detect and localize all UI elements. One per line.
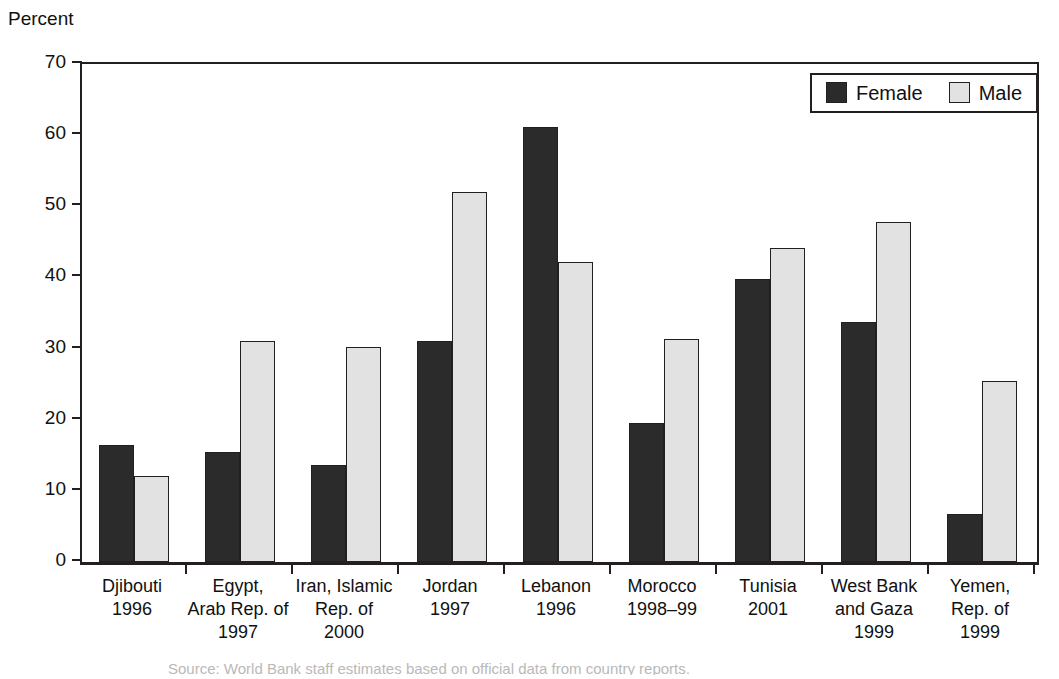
bar-male — [770, 248, 805, 562]
bar-male — [876, 222, 911, 562]
bar-male — [982, 381, 1017, 562]
y-tick-label-30: 30 — [14, 337, 66, 356]
x-tick-4 — [503, 563, 505, 574]
bar-female — [947, 514, 982, 562]
bar-female — [205, 452, 240, 562]
x-tick-2 — [291, 563, 293, 574]
bar-female — [99, 445, 134, 562]
bar-group — [735, 64, 805, 562]
x-tick-3 — [397, 563, 399, 574]
legend-swatch-male — [949, 82, 970, 103]
y-tick-label-70: 70 — [14, 52, 66, 71]
bar-male — [664, 339, 699, 562]
bar-group — [947, 64, 1017, 562]
bar-female — [523, 127, 558, 562]
x-tick-7 — [821, 563, 823, 574]
legend-label-male: Male — [979, 83, 1022, 103]
legend-entry-male[interactable]: Male — [949, 82, 1022, 103]
y-tick-label-60: 60 — [14, 123, 66, 142]
bar-group — [311, 64, 381, 562]
chart-figure: Percent 010203040506070 Djibouti1996Egyp… — [0, 0, 1059, 679]
x-tick-1 — [185, 563, 187, 574]
x-tick-6 — [715, 563, 717, 574]
bar-group — [417, 64, 487, 562]
bar-male — [134, 476, 169, 562]
figure-caption: Source: World Bank staff estimates based… — [168, 661, 928, 675]
bar-female — [311, 465, 346, 562]
bar-female — [841, 322, 876, 562]
bar-female — [735, 279, 770, 562]
x-tick-5 — [609, 563, 611, 574]
y-tick-label-40: 40 — [14, 265, 66, 284]
x-tick-8 — [927, 563, 929, 574]
bar-male — [346, 347, 381, 562]
legend-swatch-female — [826, 82, 847, 103]
bar-group — [629, 64, 699, 562]
bar-group — [523, 64, 593, 562]
bar-female — [629, 423, 664, 562]
x-tick-label-line: 2000 — [278, 621, 410, 644]
x-tick-label-line: Rep. of — [914, 598, 1046, 621]
plot-area — [80, 62, 1039, 565]
bar-group — [841, 64, 911, 562]
bar-male — [558, 262, 593, 562]
x-tick-label: Yemen,Rep. of1999 — [914, 575, 1046, 644]
x-tick-label-line: Yemen, — [914, 575, 1046, 598]
bar-male — [452, 192, 487, 562]
bar-male — [240, 341, 275, 562]
y-tick-label-10: 10 — [14, 479, 66, 498]
x-tick-9 — [1033, 563, 1035, 574]
y-tick-label-50: 50 — [14, 194, 66, 213]
bar-female — [417, 341, 452, 562]
legend-label-female: Female — [856, 83, 923, 103]
y-tick-label-0: 0 — [14, 550, 66, 569]
y-axis-title: Percent — [8, 8, 73, 30]
chart-legend: FemaleMale — [810, 73, 1038, 113]
bar-groups — [82, 64, 1037, 562]
y-tick-label-20: 20 — [14, 408, 66, 427]
legend-entry-female[interactable]: Female — [826, 82, 923, 103]
bar-group — [205, 64, 275, 562]
x-tick-label-line: 1999 — [914, 621, 1046, 644]
bar-group — [99, 64, 169, 562]
